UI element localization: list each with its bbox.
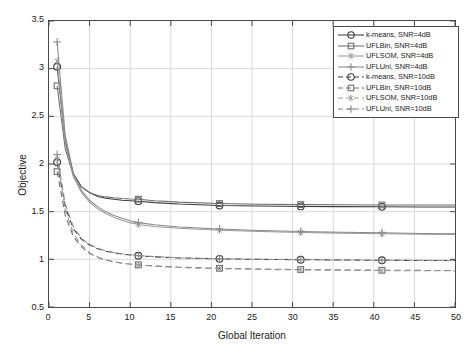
x-tick-label: 40 (359, 313, 389, 322)
data-point-marker-plus (297, 256, 305, 264)
x-tick-label: 50 (441, 313, 468, 322)
legend-item-4[interactable]: k-means, SNR=10dB (336, 72, 456, 83)
series-4 (54, 159, 455, 264)
y-tick-label: 2 (10, 159, 44, 168)
data-point-marker-plus (378, 229, 386, 237)
legend-item-7[interactable]: UFLUni, SNR=10dB (336, 104, 456, 115)
chart-legend: k-means, SNR=4dBUFLBin, SNR=4dBUFLSOM, S… (333, 26, 459, 118)
legend-item-1[interactable]: UFLBin, SNR=4dB (336, 41, 456, 52)
y-tick-label: 3.5 (10, 15, 44, 24)
legend-label: UFLSOM, SNR=4dB (366, 51, 433, 61)
legend-sample-square-icon (336, 41, 366, 51)
legend-sample-plus-icon (336, 104, 366, 114)
legend-label: UFLSOM, SNR=10dB (366, 93, 437, 103)
series-5 (54, 169, 455, 273)
y-tick-label: 2.5 (10, 111, 44, 120)
legend-label: UFLBin, SNR=4dB (366, 41, 427, 51)
legend-label: UFLUni, SNR=4dB (366, 62, 427, 72)
legend-label: k-means, SNR=10dB (366, 72, 435, 82)
legend-sample-square-icon (336, 83, 366, 93)
legend-sample-asterisk-icon (336, 51, 366, 61)
x-tick-label: 35 (319, 313, 349, 322)
legend-item-2[interactable]: UFLSOM, SNR=4dB (336, 51, 456, 62)
legend-item-6[interactable]: UFLSOM, SNR=10dB (336, 93, 456, 104)
y-tick-label: 1 (10, 255, 44, 264)
chart-figure: Objective 0.511.522.533.5 05101520253035… (0, 0, 468, 349)
y-tick-label: 0.5 (10, 303, 44, 312)
data-point-marker-plus (297, 227, 305, 235)
x-tick-label: 10 (115, 313, 145, 322)
legend-sample-circle-icon (336, 30, 366, 40)
x-tick-label: 0 (33, 313, 63, 322)
legend-label: UFLBin, SNR=10dB (366, 83, 431, 93)
x-tick-label: 45 (400, 313, 430, 322)
series-6 (55, 156, 455, 274)
y-tick-label: 3 (10, 63, 44, 72)
legend-label: k-means, SNR=4dB (366, 30, 431, 40)
legend-sample-asterisk-icon (336, 93, 366, 103)
legend-item-3[interactable]: UFLUni, SNR=4dB (336, 62, 456, 73)
x-tick-label: 20 (196, 313, 226, 322)
data-point-marker-plus (53, 38, 61, 46)
data-point-marker-plus (347, 105, 355, 113)
data-point-marker-plus (347, 63, 355, 71)
legend-sample-circle-icon (336, 72, 366, 82)
data-point-marker-plus (53, 150, 61, 158)
legend-label: UFLUni, SNR=10dB (366, 104, 432, 114)
y-tick-label: 1.5 (10, 207, 44, 216)
legend-sample-plus-icon (336, 62, 366, 72)
data-point-marker-plus (216, 225, 224, 233)
data-point-marker-plus (134, 219, 142, 227)
legend-item-0[interactable]: k-means, SNR=4dB (336, 30, 456, 41)
x-tick-label: 5 (74, 313, 104, 322)
x-tick-label: 30 (278, 313, 308, 322)
x-tick-label: 25 (237, 313, 267, 322)
x-tick-label: 15 (155, 313, 185, 322)
x-axis-label: Global Iteration (48, 330, 456, 341)
legend-item-5[interactable]: UFLBin, SNR=10dB (336, 83, 456, 94)
